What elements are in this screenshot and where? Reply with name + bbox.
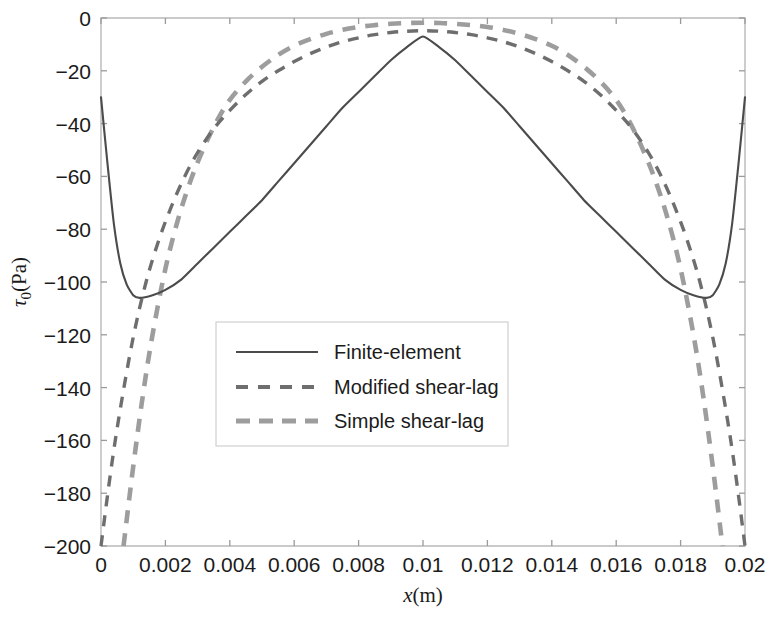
x-tick-label: 0.014 — [526, 553, 579, 576]
y-tick-label: −100 — [44, 271, 91, 294]
x-tick-label: 0.02 — [725, 553, 766, 576]
legend[interactable]: Finite-element Modified shear-lag Simple… — [216, 322, 508, 446]
y-tick-label: −120 — [44, 324, 91, 347]
x-tick-label: 0.016 — [590, 553, 643, 576]
legend-label-simple-shear-lag: Simple shear-lag — [334, 410, 484, 432]
x-tick-label: 0.006 — [268, 553, 321, 576]
y-tick-label: −80 — [55, 218, 91, 241]
y-axis-tick-labels: 0−20−40−60−80−100−120−140−160−180−200 — [44, 7, 91, 558]
x-tick-label: 0.01 — [403, 553, 444, 576]
y-tick-label: 0 — [79, 7, 91, 30]
plot-background — [101, 18, 745, 546]
x-tick-label: 0.004 — [204, 553, 257, 576]
x-tick-label: 0.002 — [139, 553, 192, 576]
figure-container: 00.0020.0040.0060.0080.010.0120.0140.016… — [0, 0, 782, 625]
y-tick-label: −160 — [44, 429, 91, 452]
y-tick-label: −200 — [44, 535, 91, 558]
plot-frame — [101, 18, 745, 546]
y-axis-title: τ0(Pa) — [7, 257, 34, 307]
x-axis-title: x(m) — [402, 583, 443, 607]
x-tick-label: 0 — [95, 553, 107, 576]
legend-label-finite-element: Finite-element — [334, 341, 461, 363]
x-tick-label: 0.018 — [654, 553, 707, 576]
x-axis-tick-labels: 00.0020.0040.0060.0080.010.0120.0140.016… — [95, 553, 765, 576]
y-tick-label: −60 — [55, 165, 91, 188]
x-tick-label: 0.012 — [461, 553, 514, 576]
y-tick-label: −180 — [44, 482, 91, 505]
y-tick-label: −20 — [55, 60, 91, 83]
y-tick-label: −140 — [44, 377, 91, 400]
y-tick-label: −40 — [55, 113, 91, 136]
x-tick-label: 0.008 — [332, 553, 385, 576]
legend-label-modified-shear-lag: Modified shear-lag — [334, 376, 499, 398]
shear-stress-chart: 00.0020.0040.0060.0080.010.0120.0140.016… — [0, 0, 782, 625]
